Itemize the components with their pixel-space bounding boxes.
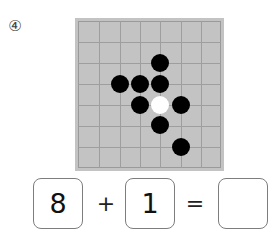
operand-2: 1 <box>141 188 158 219</box>
grid-line <box>78 63 221 64</box>
grid-line <box>78 84 221 85</box>
grid-line <box>160 21 161 168</box>
black-stone-icon <box>151 54 169 72</box>
black-stone-icon <box>131 75 149 93</box>
grid-line <box>78 147 221 148</box>
grid-line <box>78 105 221 106</box>
operand-1: 8 <box>49 188 66 219</box>
grid-line <box>78 126 221 127</box>
equals-sign: = <box>185 190 205 218</box>
answer-box[interactable] <box>218 178 268 229</box>
black-stone-icon <box>131 96 149 114</box>
grid-line <box>120 21 121 168</box>
grid-line <box>78 42 221 43</box>
operand-1-box: 8 <box>33 178 83 229</box>
black-stone-icon <box>111 75 129 93</box>
black-stone-icon <box>151 75 169 93</box>
black-stone-icon <box>172 138 190 156</box>
plus-sign: + <box>96 190 116 218</box>
white-stone-icon <box>151 96 169 114</box>
black-stone-icon <box>151 116 169 134</box>
grid-line <box>201 21 202 168</box>
go-board <box>75 18 224 171</box>
grid-line <box>99 21 100 168</box>
black-stone-icon <box>172 96 190 114</box>
grid-line <box>140 21 141 168</box>
question-number: ④ <box>7 18 23 34</box>
operand-2-box: 1 <box>125 178 175 229</box>
